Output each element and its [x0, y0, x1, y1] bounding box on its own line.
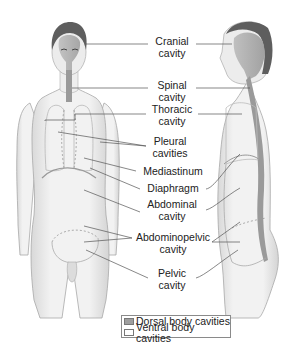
legend-item-ventral: Ventral body cavities	[124, 327, 230, 338]
anterior-figure	[17, 22, 120, 318]
dorsal-swatch-icon	[124, 318, 134, 325]
label-line: Pleural	[152, 136, 187, 148]
label-line: cavity	[155, 48, 188, 60]
label-line: Diaphragm	[147, 183, 198, 195]
label-thoracic-cavity: Thoracic cavity	[152, 104, 192, 127]
label-line: cavity	[136, 244, 210, 256]
label-line: Abdominal	[147, 199, 197, 211]
label-pleural-cavities: Pleural cavities	[152, 136, 187, 159]
label-line: Spinal	[157, 80, 186, 92]
label-line: Pelvic	[158, 268, 186, 280]
body-cavities-diagram: Cranial cavity Spinal cavity Thoracic ca…	[0, 0, 297, 345]
label-mediastinum: Mediastinum	[143, 166, 203, 178]
label-spinal-cavity: Spinal cavity	[157, 80, 186, 103]
lateral-figure	[218, 22, 279, 318]
label-line: cavity	[158, 280, 186, 292]
label-line: cavity	[147, 211, 197, 223]
label-abdominopelvic-cavity: Abdominopelvic cavity	[136, 232, 210, 255]
ventral-swatch-icon	[124, 329, 134, 336]
label-line: cavities	[152, 148, 187, 160]
label-line: Mediastinum	[143, 166, 203, 178]
label-line: Cranial	[155, 36, 188, 48]
label-diaphragm: Diaphragm	[147, 183, 198, 195]
label-pelvic-cavity: Pelvic cavity	[158, 268, 186, 291]
label-abdominal-cavity: Abdominal cavity	[147, 199, 197, 222]
legend-label: Ventral body cavities	[136, 322, 230, 344]
label-line: Abdominopelvic	[136, 232, 210, 244]
label-line: cavity	[157, 92, 186, 104]
label-line: cavity	[152, 116, 192, 128]
label-line: Thoracic	[152, 104, 192, 116]
label-cranial-cavity: Cranial cavity	[155, 36, 188, 59]
legend: Dorsal body cavities Ventral body caviti…	[121, 315, 231, 338]
